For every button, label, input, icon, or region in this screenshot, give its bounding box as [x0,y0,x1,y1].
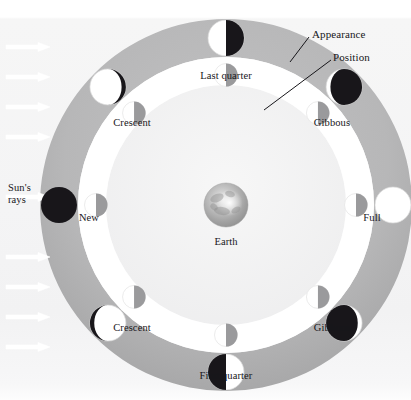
sun-ray-arrow-2 [6,73,50,82]
moon-last-quarter [208,20,244,56]
sun-rays-label-line2: rays [8,194,31,206]
phase-label-full: Full [363,212,380,224]
sun-ray-arrow-6 [6,253,50,262]
callout-label-appearance: Appearance [312,28,366,40]
phase-label-crescent-waxing: Crescent [113,117,151,129]
sun-ray-arrow-3 [6,103,50,112]
phase-label-gibbous-waxing: Gibbous [314,322,350,334]
phase-label-new: New [79,212,99,224]
moon-gibbous-waning [326,69,362,105]
earth-globe [204,183,248,227]
earth-label: Earth [214,236,237,248]
phase-label-gibbous-waning: Gibbous [314,117,350,129]
pos-crescent-waning-marker [123,285,146,308]
sun-ray-arrow-8 [6,313,50,322]
sun-ray-arrow-9 [6,343,50,352]
phase-label-last-quarter: Last quarter [200,70,252,82]
sun-rays-label: Sun's rays [8,182,31,206]
phase-label-crescent-waning: Crescent [113,322,151,334]
sun-rays-label-line1: Sun's [8,182,31,194]
moon-crescent-waxing [90,69,126,105]
phase-label-first-quarter: First quarter [200,370,253,382]
sun-ray-arrow-7 [6,283,50,292]
sun-ray-arrow-1 [6,43,50,52]
moon-phases-figure: Sun's rays Earth NewCrescentLast quarter… [0,0,411,400]
sun-ray-arrow-4 [6,133,50,142]
pos-gibbous-waxing-marker [306,285,329,308]
pos-first-quarter-marker [215,324,238,347]
moon-new [41,187,77,223]
callout-label-position: Position [333,51,370,63]
